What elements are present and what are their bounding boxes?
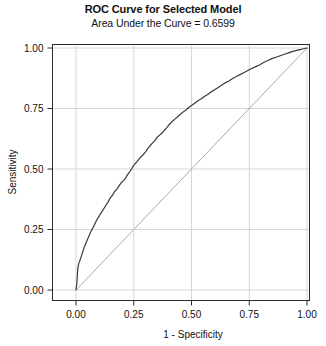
axis-ticks: [48, 48, 308, 306]
y-tick-label: 0.75: [24, 103, 44, 114]
y-tick-label: 0.50: [24, 164, 44, 175]
x-tick-label: 0.00: [66, 309, 86, 320]
x-tick-label: 0.75: [240, 309, 260, 320]
y-tick-label: 1.00: [24, 43, 44, 54]
y-tick-label: 0.25: [24, 224, 44, 235]
x-tick-label: 0.50: [182, 309, 202, 320]
x-tick-label: 0.25: [124, 309, 144, 320]
chart-canvas: 0.000.250.500.751.000.000.250.500.751.00…: [0, 0, 326, 346]
x-axis-title: 1 - Specificity: [163, 329, 222, 340]
y-tick-label: 0.00: [24, 285, 44, 296]
y-axis-title: Sensitivity: [7, 149, 18, 194]
grid-lines: [53, 45, 310, 301]
plot-frame: [53, 45, 310, 301]
roc-chart: ROC Curve for Selected Model Area Under …: [0, 0, 326, 346]
x-tick-label: 1.00: [297, 309, 317, 320]
